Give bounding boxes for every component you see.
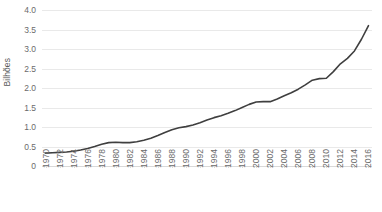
x-axis-tick-label: 2008 [308,149,317,168]
y-axis-tick-label: 0 [14,162,40,171]
plot-area [42,10,372,166]
x-axis-tick-label: 2010 [322,149,331,168]
x-axis-tick-label: 2002 [266,149,275,168]
x-axis-tick-label: 1998 [238,149,247,168]
x-axis-tick-label: 2012 [336,149,345,168]
line-chart: Bilhões 00.51.01.52.02.53.03.54.0 197019… [0,0,382,212]
y-axis-tick-label: 2.0 [14,84,40,93]
y-axis-ticks: 00.51.01.52.02.53.03.54.0 [14,0,40,212]
x-axis-tick-label: 1978 [97,149,106,168]
y-axis-tick-label: 1.0 [14,123,40,132]
x-axis-tick-label: 1996 [224,149,233,168]
x-axis-tick-label: 2004 [280,149,289,168]
y-axis-tick-label: 1.5 [14,103,40,112]
series-line [42,10,372,166]
x-axis-tick-label: 1982 [126,149,135,168]
y-axis-tick-label: 2.5 [14,64,40,73]
y-axis-tick-label: 3.0 [14,45,40,54]
x-axis-tick-label: 1986 [154,149,163,168]
x-axis-tick-label: 1976 [83,149,92,168]
x-axis-tick-label: 1984 [140,149,149,168]
x-axis-tick-label: 2000 [252,149,261,168]
x-axis-tick-label: 1994 [210,149,219,168]
y-axis-tick-label: 4.0 [14,6,40,15]
x-axis-tick-label: 1992 [196,149,205,168]
x-axis-tick-label: 1970 [41,149,50,168]
x-axis-tick-label: 2016 [364,149,373,168]
x-axis-tick-label: 2014 [350,149,359,168]
x-axis-tick-label: 1980 [111,149,120,168]
y-axis-tick-label: 0.5 [14,142,40,151]
x-axis-ticks: 1970197219741976197819801982198419861988… [42,168,372,212]
x-axis-tick-label: 1990 [182,149,191,168]
y-axis-tick-label: 3.5 [14,25,40,34]
x-axis-tick-label: 1974 [69,149,78,168]
x-axis-tick-label: 2006 [294,149,303,168]
x-axis-tick-label: 1988 [168,149,177,168]
x-axis-tick-label: 1972 [55,149,64,168]
series-polyline [46,26,369,154]
